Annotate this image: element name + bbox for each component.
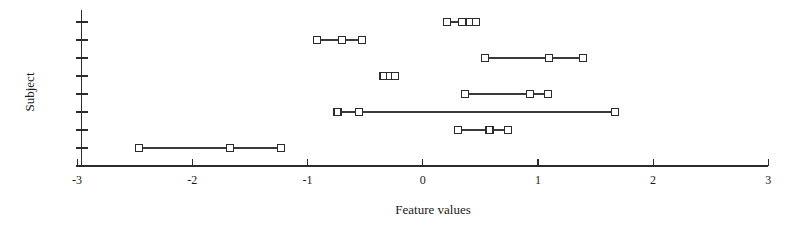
data-point-marker (443, 19, 450, 26)
data-point-marker (136, 145, 143, 152)
range-plot-chart: -3-2-10123 Feature values Subject (0, 0, 805, 234)
series-row-4 (380, 73, 399, 80)
data-point-marker (462, 91, 469, 98)
data-point-marker (278, 145, 285, 152)
data-point-marker (526, 91, 533, 98)
data-point-marker (358, 37, 365, 44)
figure-container: -3-2-10123 Feature values Subject (0, 0, 805, 234)
x-tick-label-4: 1 (535, 173, 541, 187)
x-tick-label-6: 3 (765, 173, 771, 187)
x-tick-label-1: -2 (187, 173, 197, 187)
series-row-2 (313, 37, 365, 44)
axis-layer (76, 10, 769, 166)
axis-label-layer: -3-2-10123 (72, 173, 771, 187)
data-point-marker (481, 55, 488, 62)
x-axis-title: Feature values (395, 202, 470, 217)
data-point-marker (612, 109, 619, 116)
data-point-marker (545, 91, 552, 98)
data-point-marker (356, 109, 363, 116)
x-tick-label-3: 0 (420, 173, 426, 187)
data-point-marker (339, 37, 346, 44)
y-axis-title: Subject (22, 72, 37, 111)
data-point-marker (455, 127, 462, 134)
series-row-8 (136, 145, 285, 152)
data-point-marker (486, 127, 493, 134)
series-row-6 (334, 109, 619, 116)
data-point-marker (380, 73, 387, 80)
series-row-5 (462, 91, 552, 98)
data-point-marker (504, 127, 511, 134)
x-tick-label-2: -1 (303, 173, 313, 187)
data-point-marker (313, 37, 320, 44)
series-row-1 (443, 19, 479, 26)
series-row-7 (455, 127, 512, 134)
data-point-marker (392, 73, 399, 80)
x-tick-label-0: -3 (72, 173, 82, 187)
series-layer (136, 19, 619, 152)
data-point-marker (472, 19, 479, 26)
data-point-marker (546, 55, 553, 62)
series-row-3 (481, 55, 586, 62)
data-point-marker (579, 55, 586, 62)
x-tick-label-5: 2 (650, 173, 656, 187)
data-point-marker (227, 145, 234, 152)
data-point-marker (334, 109, 341, 116)
data-point-marker (458, 19, 465, 26)
